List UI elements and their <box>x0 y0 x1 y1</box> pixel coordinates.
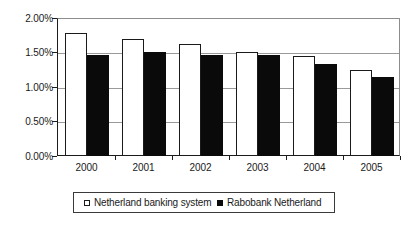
y-tick-label-1-00: 1.00% <box>5 82 53 93</box>
legend-swatch-open-square-icon <box>84 200 90 206</box>
y-tick-label-0-00: 0.00% <box>5 151 53 162</box>
legend-entry-netherland-banking-system: Netherland banking system <box>84 193 211 212</box>
legend: Netherland banking system Rabobank Nethe… <box>73 192 335 213</box>
bar-2004-series-2[interactable] <box>315 64 337 156</box>
legend-entry-rabobank-netherland: Rabobank Netherland <box>217 193 321 212</box>
y-tick-mark-0-00 <box>52 156 57 157</box>
x-tick-label-2005: 2005 <box>343 162 400 173</box>
x-tick-label-2002: 2002 <box>172 162 229 173</box>
bar-2004-series-1[interactable] <box>293 56 315 156</box>
bar-2001-series-1[interactable] <box>122 39 144 156</box>
bar-2003-series-2[interactable] <box>258 55 280 156</box>
legend-label-series-b: Rabobank Netherland <box>227 197 321 208</box>
bar-chart-figure: 2.00% 1.50% 1.00% 0.50% 0.00% 2000200120… <box>0 0 407 226</box>
y-tick-label-0-50: 0.50% <box>5 116 53 127</box>
category-tick-2002 <box>229 156 230 160</box>
bar-2005-series-1[interactable] <box>350 70 372 156</box>
y-tick-label-1-50: 1.50% <box>5 47 53 58</box>
bar-2002-series-2[interactable] <box>201 55 223 156</box>
category-tick-2000 <box>115 156 116 160</box>
bar-2002-series-1[interactable] <box>179 44 201 156</box>
category-tick-2005 <box>400 156 401 160</box>
y-tick-mark-1-00 <box>52 87 57 88</box>
x-tick-label-2003: 2003 <box>229 162 286 173</box>
category-tick-2001 <box>172 156 173 160</box>
bar-2001-series-2[interactable] <box>144 52 166 156</box>
bar-2005-series-2[interactable] <box>372 77 394 156</box>
y-tick-mark-1-50 <box>52 52 57 53</box>
y-tick-mark-0-50 <box>52 121 57 122</box>
bar-group-2005 <box>350 18 394 156</box>
x-tick-label-2004: 2004 <box>286 162 343 173</box>
legend-label-series-a: Netherland banking system <box>94 197 211 208</box>
bar-2000-series-2[interactable] <box>87 55 109 156</box>
bar-group-2001 <box>122 18 166 156</box>
category-tick-2004 <box>343 156 344 160</box>
bar-2000-series-1[interactable] <box>65 33 87 156</box>
bar-group-2004 <box>293 18 337 156</box>
bar-group-2000 <box>65 18 109 156</box>
bar-group-2003 <box>236 18 280 156</box>
y-axis: 2.00% 1.50% 1.00% 0.50% 0.00% <box>0 0 53 226</box>
y-tick-mark-2-00 <box>52 18 57 19</box>
legend-swatch-filled-square-icon <box>217 200 223 206</box>
bar-2003-series-1[interactable] <box>236 52 258 156</box>
bars-layer <box>58 18 400 156</box>
y-tick-label-2-00: 2.00% <box>5 13 53 24</box>
x-tick-label-2000: 2000 <box>58 162 115 173</box>
category-tick-2003 <box>286 156 287 160</box>
bar-group-2002 <box>179 18 223 156</box>
x-tick-label-2001: 2001 <box>115 162 172 173</box>
